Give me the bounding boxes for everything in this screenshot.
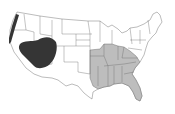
- us-map: [0, 0, 175, 114]
